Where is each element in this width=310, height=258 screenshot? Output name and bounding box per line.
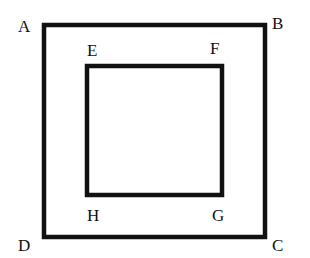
label-A: A bbox=[18, 17, 31, 36]
label-F: F bbox=[210, 39, 219, 58]
label-C: C bbox=[272, 236, 283, 255]
label-H: H bbox=[87, 206, 99, 225]
inner-square-EFGH bbox=[87, 66, 222, 195]
label-D: D bbox=[18, 236, 30, 255]
label-G: G bbox=[212, 206, 224, 225]
outer-square-ABCD bbox=[44, 25, 265, 237]
label-B: B bbox=[272, 14, 283, 33]
label-E: E bbox=[87, 41, 97, 60]
diagram-canvas: A B C D E F G H bbox=[0, 0, 310, 258]
